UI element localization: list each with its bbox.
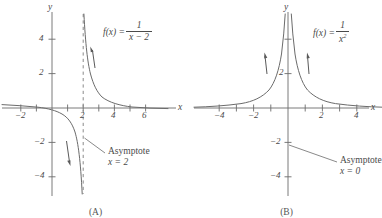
- x-tick-label-2: 2: [80, 111, 85, 120]
- x-tick-label-2: 2: [319, 111, 324, 120]
- panel-a: y x −2 2 4 6 4 2 −2 −4 f(x) =1x − 2 Asym…: [0, 0, 191, 218]
- formula-lhs: f(x) =: [313, 28, 335, 38]
- asymptote-annotation-equation: x = 2: [108, 157, 150, 168]
- formula-fraction: 1x − 2: [126, 21, 152, 43]
- formula-numerator: 1: [126, 21, 152, 31]
- x-tick-label-6: 6: [142, 111, 147, 120]
- formula-fraction: 1x2: [336, 21, 349, 45]
- formula-denominator: x − 2: [126, 31, 152, 43]
- x-axis-label: x: [371, 103, 375, 113]
- panel-b-plot: [191, 0, 382, 218]
- arrow-up-right-branch: [307, 53, 310, 75]
- x-tick-label--4: −4: [214, 111, 225, 120]
- arrow-up-right-branch: [90, 47, 95, 69]
- panel-b: y x −4 −2 2 4 2 −2 −4 f(x) =1x2 Asymptot…: [191, 0, 382, 218]
- panel-b-caption: (B): [191, 207, 382, 217]
- panel-a-caption: (A): [0, 207, 191, 217]
- formula-denominator-exponent: 2: [343, 32, 346, 39]
- y-tick-label-2: 2: [39, 68, 44, 77]
- formula-lhs: f(x) =: [103, 27, 125, 37]
- formula-denominator: x2: [336, 31, 349, 45]
- x-tick-label-4: 4: [111, 111, 116, 120]
- asymptote-annotation: Asymptote x = 0: [340, 155, 382, 177]
- y-tick-label--2: −2: [34, 137, 45, 146]
- asymptote-annotation: Asymptote x = 2: [108, 146, 150, 168]
- asymptote-annotation-title: Asymptote: [108, 146, 150, 157]
- y-tick-label--4: −4: [270, 171, 281, 180]
- x-tick-label-4: 4: [354, 111, 359, 120]
- formula-numerator: 1: [336, 21, 349, 31]
- x-tick-label--2: −2: [15, 111, 26, 120]
- function-formula: f(x) =1x − 2: [103, 22, 153, 44]
- annotation-leader-line: [289, 145, 337, 162]
- arrow-down-left-branch: [67, 141, 71, 166]
- y-tick-label--4: −4: [34, 171, 45, 180]
- annotation-leader-line: [85, 138, 106, 153]
- panel-a-plot: [0, 0, 191, 218]
- y-tick-label--2: −2: [270, 137, 281, 146]
- y-tick-label-4: 4: [39, 34, 44, 43]
- x-axis-label: x: [178, 103, 182, 113]
- asymptote-annotation-equation: x = 0: [340, 166, 382, 177]
- curve-left-branch: [194, 14, 285, 107]
- y-axis-label: y: [48, 3, 52, 13]
- function-formula: f(x) =1x2: [313, 22, 350, 46]
- x-tick-label--2: −2: [248, 111, 259, 120]
- y-tick-label-2: 2: [279, 68, 284, 77]
- asymptote-annotation-title: Asymptote: [340, 155, 382, 166]
- arrow-up-left-branch: [264, 53, 267, 75]
- figure-container: y x −2 2 4 6 4 2 −2 −4 f(x) =1x − 2 Asym…: [0, 0, 382, 218]
- y-axis-label: y: [284, 3, 288, 13]
